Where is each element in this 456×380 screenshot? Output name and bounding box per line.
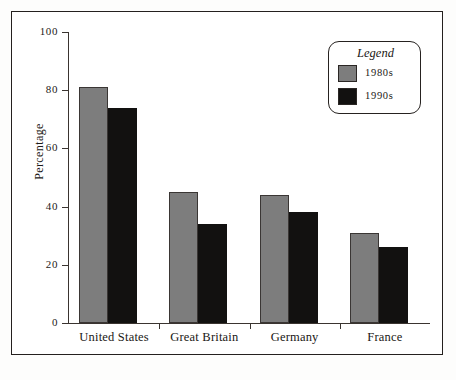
legend-swatch	[338, 88, 357, 105]
figure-page: 020406080100 Percentage United StatesGre…	[0, 0, 456, 380]
bar	[79, 87, 108, 323]
y-tick-mark	[62, 323, 69, 324]
bar	[198, 224, 227, 323]
x-tick-mark	[250, 323, 251, 329]
x-tick-label: France	[315, 330, 455, 345]
legend-entry: 1990s	[338, 87, 416, 106]
bar	[379, 247, 408, 323]
bar-group	[260, 31, 318, 323]
bar	[169, 192, 198, 323]
legend-title: Legend	[329, 46, 422, 61]
y-tick-mark	[62, 148, 69, 149]
bar-group	[169, 31, 227, 323]
plot-area: 020406080100 Percentage United StatesGre…	[12, 12, 444, 356]
y-tick-label: 80	[12, 83, 58, 95]
legend-box: Legend 1980s1990s	[328, 41, 421, 114]
figure-frame: 020406080100 Percentage United StatesGre…	[11, 11, 443, 355]
y-tick-label: 20	[12, 258, 58, 270]
bar	[108, 108, 137, 323]
y-tick-mark	[62, 207, 69, 208]
y-tick-mark	[62, 32, 69, 33]
x-tick-mark	[159, 323, 160, 329]
y-tick-label: 0	[12, 316, 58, 328]
y-tick-mark	[62, 265, 69, 266]
bar	[260, 195, 289, 323]
bar-group	[79, 31, 137, 323]
bar	[350, 233, 379, 323]
x-tick-mark	[340, 323, 341, 329]
legend-entry: 1980s	[338, 64, 416, 83]
y-axis-line	[68, 32, 69, 324]
legend-label: 1980s	[365, 67, 394, 78]
legend-label: 1990s	[365, 90, 394, 101]
bar	[289, 212, 318, 323]
legend-swatch	[338, 65, 357, 82]
y-tick-label: 100	[12, 25, 58, 37]
y-tick-mark	[62, 90, 69, 91]
y-axis-title: Percentage	[32, 102, 47, 202]
